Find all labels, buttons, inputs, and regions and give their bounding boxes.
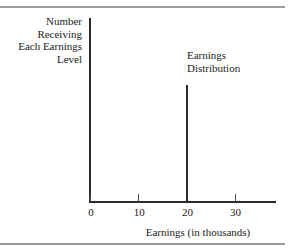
x-axis-tick-label-30: 30 (216, 206, 256, 219)
bottom-divider-rule (0, 243, 285, 245)
y-axis-line (89, 18, 91, 203)
series-annotation-earnings-distribution: Earnings Distribution (187, 49, 240, 74)
top-divider-rule (0, 6, 285, 8)
x-axis-tick-30 (235, 194, 236, 202)
y-axis-label: Number Receiving Each Earnings Level (8, 15, 82, 65)
x-axis-tick-0 (90, 194, 91, 202)
x-axis-title: Earnings (in thousands) (110, 226, 286, 239)
x-axis-tick-label-0: 0 (71, 206, 111, 219)
earnings-distribution-figure: 0102030 Number Receiving Each Earnings L… (0, 0, 293, 252)
data-spike-at-20 (186, 85, 188, 203)
x-axis-tick-label-10: 10 (119, 206, 159, 219)
x-axis-line (89, 201, 276, 203)
x-axis-tick-10 (138, 194, 139, 202)
x-axis-tick-label-20: 20 (167, 206, 207, 219)
